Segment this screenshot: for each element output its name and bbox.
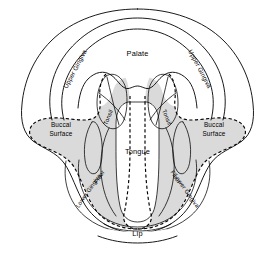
lip-label: Lip xyxy=(132,229,142,238)
palate-label: Palate xyxy=(127,49,149,58)
buccal-surface-left-label: Buccal xyxy=(51,121,71,128)
tongue-region-fill xyxy=(116,102,159,222)
oral-cavity-illustration: Palate Tongue Lip Upper Gingiva Upper Gi… xyxy=(0,0,275,254)
buccal-surface-right-label-2: Surface xyxy=(202,130,225,137)
buccal-surface-left-label-2: Surface xyxy=(49,130,72,137)
oral-cavity-diagram: Palate Tongue Lip Upper Gingiva Upper Gi… xyxy=(0,0,275,254)
tongue-label: Tongue xyxy=(125,147,150,156)
palate-region-fill xyxy=(74,26,202,107)
buccal-surface-right-label: Buccal xyxy=(204,121,224,128)
